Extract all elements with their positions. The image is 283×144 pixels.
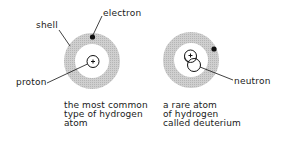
electron-leader [93, 16, 102, 35]
proton-label: proton [16, 78, 47, 87]
caption-line: atom [64, 119, 148, 128]
shell-leader [59, 30, 70, 46]
caption-line: called deuterium [163, 119, 241, 128]
deuterium-caption: a rare atom of hydrogen called deuterium [163, 101, 241, 128]
shell-label: shell [36, 21, 58, 30]
deuterium-atom [169, 38, 234, 83]
neutron-label: neutron [234, 77, 271, 86]
electron-label: electron [103, 9, 141, 18]
neutron-circle [188, 59, 201, 72]
electron-dot [211, 46, 216, 51]
electron-dot [90, 34, 95, 39]
hydrogen-caption: the most common type of hydrogen atom [64, 101, 148, 128]
